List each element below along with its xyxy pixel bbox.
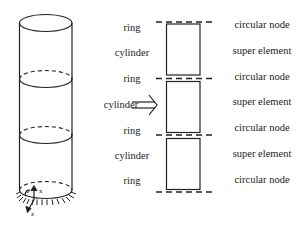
x-axis-label: x	[39, 188, 43, 195]
right-label-circular-node-2: circular node	[234, 72, 289, 83]
top-ring	[20, 15, 73, 32]
super-element-2	[167, 82, 201, 133]
left-label-ring-1: ring	[124, 23, 141, 34]
right-label-circular-node-4: circular node	[234, 175, 289, 186]
theta-axis-label: θ	[26, 188, 29, 195]
diagram-graphics	[0, 0, 306, 228]
super-element-1	[167, 24, 201, 75]
circular-nodes	[156, 22, 212, 192]
diagram-canvas: θ x z ring cylinder ring cylinder ring c…	[0, 0, 306, 228]
left-label-ring-4: ring	[124, 176, 141, 187]
left-label-ring-3: ring	[124, 126, 141, 137]
ring-2	[20, 71, 73, 88]
z-axis-label: z	[31, 211, 34, 218]
left-label-ring-2: ring	[124, 74, 141, 85]
right-label-circular-node-3: circular node	[234, 123, 289, 134]
right-label-super-element-2: super element	[233, 97, 292, 108]
cylinder-shell	[20, 23, 73, 190]
left-label-cylinder-3: cylinder	[115, 151, 149, 162]
super-element-3	[167, 139, 201, 190]
right-label-super-element-1: super element	[233, 46, 292, 57]
left-label-cylinder-2: cylinder	[104, 100, 138, 111]
right-label-circular-node-1: circular node	[234, 20, 289, 31]
ring-3	[20, 127, 73, 144]
left-label-cylinder-1: cylinder	[115, 48, 149, 59]
right-label-super-element-3: super element	[233, 149, 292, 160]
